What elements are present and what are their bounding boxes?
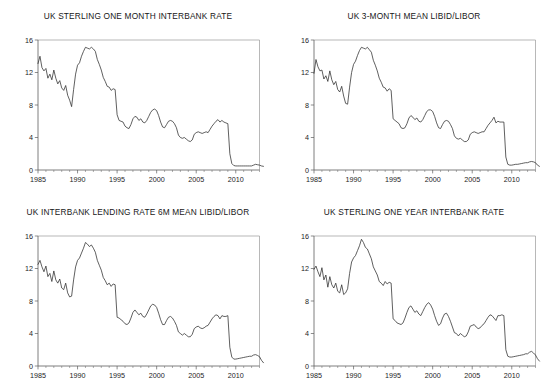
- series-line: [38, 243, 263, 363]
- x-tick-label: 1995: [109, 175, 125, 184]
- y-tick-label: 12: [25, 68, 33, 77]
- x-tick-label: 2005: [464, 371, 480, 380]
- x-tick-label: 1985: [306, 175, 322, 184]
- plot-area: 0481216198519901995200020052010: [276, 196, 552, 391]
- y-tick-label: 8: [29, 297, 33, 306]
- y-tick-label: 16: [301, 232, 309, 241]
- y-tick-label: 0: [305, 166, 309, 175]
- y-tick-label: 4: [305, 329, 309, 338]
- x-tick-label: 1990: [70, 175, 86, 184]
- chart-grid: UK STERLING ONE MONTH INTERBANK RATE 048…: [0, 0, 552, 391]
- x-tick-label: 1990: [346, 371, 362, 380]
- x-tick-label: 2005: [464, 175, 480, 184]
- x-tick-label: 2010: [504, 371, 520, 380]
- y-tick-label: 8: [305, 101, 309, 110]
- y-tick-label: 0: [305, 362, 309, 371]
- x-tick-label: 2000: [425, 175, 441, 184]
- y-tick-label: 16: [301, 36, 309, 45]
- x-tick-label: 2000: [425, 371, 441, 380]
- y-tick-label: 16: [25, 232, 33, 241]
- panel-one-month-interbank: UK STERLING ONE MONTH INTERBANK RATE 048…: [0, 0, 276, 195]
- plot-area: 0481216198519901995200020052010: [0, 0, 276, 195]
- y-tick-label: 0: [29, 362, 33, 371]
- plot-area: 0481216198519901995200020052010: [276, 0, 552, 195]
- y-tick-label: 8: [29, 101, 33, 110]
- y-tick-label: 12: [25, 264, 33, 273]
- series-line: [314, 239, 539, 361]
- x-tick-label: 1990: [346, 175, 362, 184]
- y-tick-label: 16: [25, 36, 33, 45]
- x-tick-label: 2010: [228, 175, 244, 184]
- panel-3month-mean-libid-libor: UK 3-MONTH MEAN LIBID/LIBOR 048121619851…: [276, 0, 552, 195]
- x-tick-label: 1995: [385, 175, 401, 184]
- y-tick-label: 12: [301, 264, 309, 273]
- y-tick-label: 4: [29, 329, 33, 338]
- x-tick-label: 1985: [306, 371, 322, 380]
- x-tick-label: 2010: [228, 371, 244, 380]
- plot-area: 0481216198519901995200020052010: [0, 196, 276, 391]
- panel-6m-mean-libid-libor: UK INTERBANK LENDING RATE 6M MEAN LIBID/…: [0, 196, 276, 391]
- x-tick-label: 1995: [109, 371, 125, 380]
- x-tick-label: 1985: [30, 371, 46, 380]
- y-tick-label: 12: [301, 68, 309, 77]
- x-tick-label: 1990: [70, 371, 86, 380]
- y-tick-label: 8: [305, 297, 309, 306]
- x-tick-label: 2010: [504, 175, 520, 184]
- y-tick-label: 0: [29, 166, 33, 175]
- y-tick-label: 4: [29, 133, 33, 142]
- series-line: [314, 47, 539, 166]
- panel-one-year-interbank: UK STERLING ONE YEAR INTERBANK RATE 0481…: [276, 196, 552, 391]
- x-tick-label: 2000: [149, 371, 165, 380]
- x-tick-label: 1985: [30, 175, 46, 184]
- x-tick-label: 2000: [149, 175, 165, 184]
- x-tick-label: 2005: [188, 175, 204, 184]
- x-tick-label: 1995: [385, 371, 401, 380]
- y-tick-label: 4: [305, 133, 309, 142]
- series-line: [38, 47, 263, 166]
- x-tick-label: 2005: [188, 371, 204, 380]
